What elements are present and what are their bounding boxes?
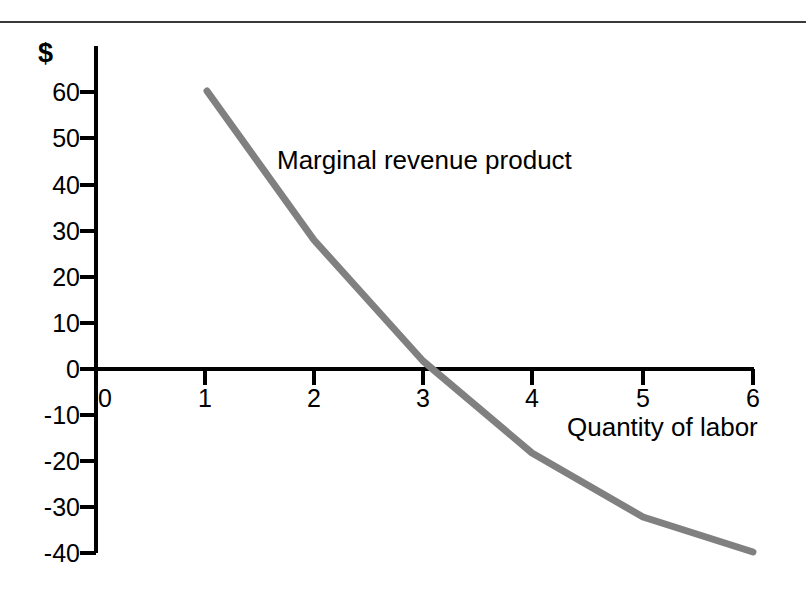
y-tick-label-neg40: -40 xyxy=(10,541,80,566)
x-tick-marks xyxy=(205,369,753,385)
y-tick-label-40: 40 xyxy=(10,173,80,198)
y-tick-label-neg10: -10 xyxy=(10,403,80,428)
x-tick-label-3: 3 xyxy=(393,386,453,411)
y-tick-marks xyxy=(80,92,96,553)
y-axis-unit-label: $ xyxy=(38,40,53,67)
y-tick-label-30: 30 xyxy=(10,219,80,244)
figure-container: $ 60 50 40 30 20 10 0 -10 -20 -30 -40 0 … xyxy=(0,0,806,597)
x-tick-label-6: 6 xyxy=(723,386,783,411)
y-tick-label-0: 0 xyxy=(10,357,80,382)
x-tick-label-2: 2 xyxy=(284,386,344,411)
y-tick-label-neg30: -30 xyxy=(10,495,80,520)
x-axis-title: Quantity of labor xyxy=(567,414,758,440)
series-annotation-label: Marginal revenue product xyxy=(277,147,572,173)
x-tick-label-1: 1 xyxy=(175,386,235,411)
y-tick-label-10: 10 xyxy=(10,311,80,336)
chart-plot-area xyxy=(0,0,806,597)
y-tick-label-neg20: -20 xyxy=(10,449,80,474)
y-tick-label-50: 50 xyxy=(10,126,80,151)
y-tick-label-60: 60 xyxy=(10,80,80,105)
x-tick-label-5: 5 xyxy=(613,386,673,411)
y-tick-label-20: 20 xyxy=(10,265,80,290)
x-tick-label-4: 4 xyxy=(502,386,562,411)
x-tick-label-0: 0 xyxy=(75,386,135,411)
